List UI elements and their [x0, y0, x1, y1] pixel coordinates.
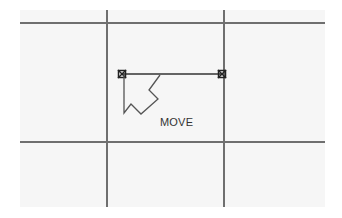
- move-arrow-icon: [124, 75, 160, 114]
- endpoint-handle-start[interactable]: [118, 70, 126, 78]
- cursor-mode-label: MOVE: [160, 116, 193, 128]
- endpoint-handle-end[interactable]: [218, 70, 226, 78]
- drawing-overlay: [0, 0, 342, 218]
